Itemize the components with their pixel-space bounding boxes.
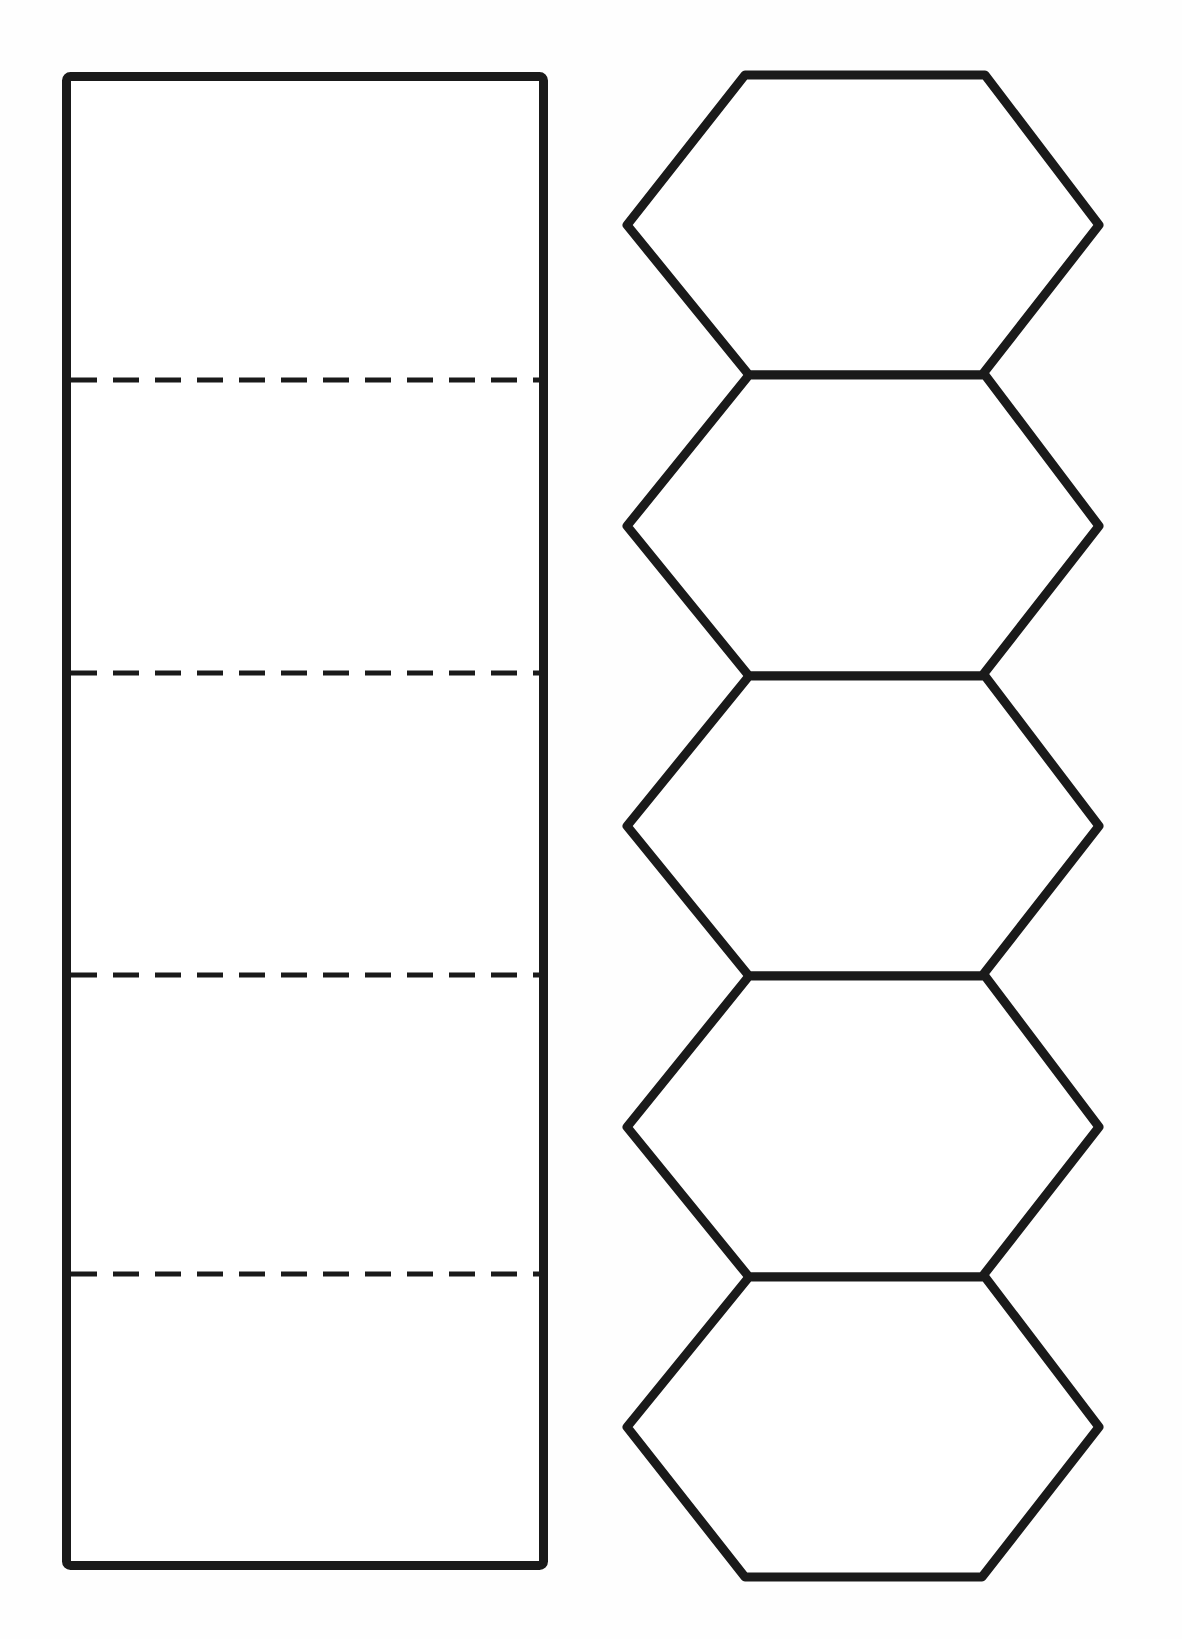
worksheet-page [0,0,1182,1639]
rectangle-net [67,77,544,1566]
hexagon-strip-net [627,75,1099,1577]
hexagon-panel-4 [627,976,1099,1277]
net-diagram-canvas [0,0,1182,1639]
hexagon-panel-2 [627,375,1099,676]
hexagon-panel-5 [627,1277,1099,1577]
hexagon-panel-3 [627,676,1099,976]
rectangle-net-outline [67,77,544,1566]
hexagon-panel-1 [627,75,1099,375]
